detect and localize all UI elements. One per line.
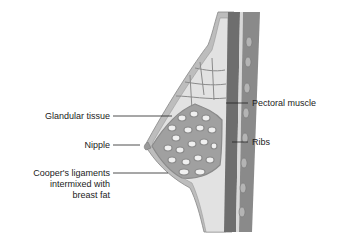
glandular-tissue-label: Glandular tissue — [20, 111, 110, 121]
ribs-label: Ribs — [252, 137, 270, 147]
pectoral-muscle-label: Pectoral muscle — [252, 98, 316, 108]
coopers-ligaments-label-line1: Cooper's ligaments — [5, 168, 110, 178]
coopers-ligaments-label-line2: intermixed with — [5, 179, 110, 189]
nipple-label: Nipple — [20, 140, 110, 150]
coopers-ligaments-label-line3: breast fat — [5, 190, 110, 200]
